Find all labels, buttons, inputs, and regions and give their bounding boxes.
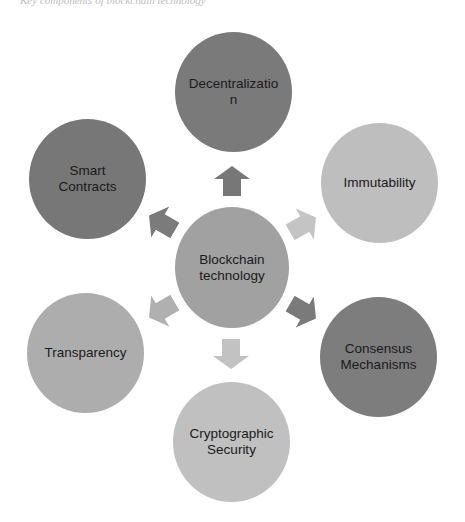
node-label: Consensus Mechanisms bbox=[331, 341, 427, 373]
arrow-up-left-icon bbox=[140, 200, 184, 246]
center-label: Blockchain technology bbox=[192, 252, 272, 284]
arrow-down-right-icon bbox=[281, 288, 325, 334]
node-decentralization: Decentralization bbox=[175, 32, 292, 152]
node-label: Transparency bbox=[42, 345, 130, 361]
arrow-up-right-icon bbox=[281, 202, 325, 248]
node-label: Immutability bbox=[332, 175, 428, 191]
node-consensus-mechanisms: Consensus Mechanisms bbox=[320, 297, 437, 417]
arrow-down-icon bbox=[213, 339, 249, 369]
arrow-down-left-icon bbox=[140, 287, 184, 333]
node-transparency: Transparency bbox=[27, 293, 144, 413]
figure-caption: Key components of blockchain technology bbox=[20, 0, 206, 6]
node-label: Smart Contracts bbox=[48, 163, 128, 195]
arrow-up-icon bbox=[214, 166, 250, 196]
node-label: Decentralization bbox=[188, 76, 280, 108]
node-label: Cryptographic Security bbox=[186, 426, 278, 458]
node-center-blockchain: Blockchain technology bbox=[175, 207, 289, 328]
node-immutability: Immutability bbox=[321, 123, 438, 243]
node-smart-contracts: Smart Contracts bbox=[29, 119, 146, 239]
node-cryptographic-security: Cryptographic Security bbox=[173, 382, 290, 502]
